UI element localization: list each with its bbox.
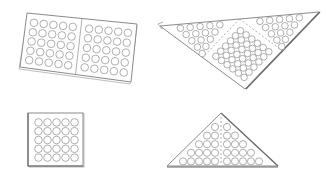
cell-circle (211, 123, 218, 130)
cell-circle (239, 55, 246, 62)
cell-circle (56, 51, 64, 59)
cell-circle (255, 158, 262, 165)
cell-circle (257, 18, 264, 25)
cell-circle (124, 29, 132, 37)
cell-circle (213, 53, 220, 60)
diagram-canvas (0, 0, 326, 180)
cell-circle (227, 38, 234, 45)
cell-circle (44, 127, 52, 135)
cell-circle (177, 25, 184, 32)
cell-circle (82, 54, 90, 62)
cell-circle (62, 127, 70, 135)
cell-circle (268, 31, 275, 38)
cell-circle (194, 44, 201, 51)
cell-circle (50, 21, 58, 29)
cell-circle (237, 27, 244, 34)
cell-circle (277, 30, 284, 37)
cell-circle (53, 119, 61, 127)
cell-circle (195, 149, 202, 156)
cell-circle (101, 56, 109, 64)
cell-circle (195, 141, 202, 148)
cell-circle (211, 158, 218, 165)
cell-circle (111, 58, 119, 66)
cell-circle (229, 56, 236, 63)
cell-circle (255, 49, 262, 56)
cell-circle (282, 23, 289, 30)
cell-circle (110, 67, 118, 75)
cell-circle (249, 45, 256, 52)
cell-circle (179, 158, 186, 165)
cell-circle (207, 22, 214, 29)
cell-circle (62, 145, 70, 153)
square-sheet (28, 113, 84, 167)
cell-circle (122, 49, 130, 57)
cell-circle (183, 31, 190, 38)
cell-circle (58, 32, 66, 40)
cell-circle (48, 31, 56, 39)
cell-circle (30, 19, 38, 27)
cell-circle (235, 70, 242, 77)
cell-circle (71, 127, 79, 135)
cell-circle (234, 51, 241, 58)
cell-circle (71, 136, 79, 144)
cell-circle (247, 158, 254, 165)
cell-circle (239, 141, 246, 148)
cell-circle (223, 132, 230, 139)
cell-circle (92, 55, 100, 63)
cell-circle (231, 132, 238, 139)
cell-circle (68, 33, 76, 41)
cell-circle (187, 158, 194, 165)
cell-circle (62, 136, 70, 144)
cell-circle (187, 149, 194, 156)
cell-circle (274, 37, 281, 44)
cell-circle (232, 33, 239, 40)
cell-circle (198, 37, 205, 44)
cell-circle (95, 26, 103, 34)
cell-circle (231, 141, 238, 148)
cell-circle (261, 54, 268, 61)
cell-circle (93, 45, 101, 53)
cell-circle (189, 38, 196, 45)
cell-circle (53, 145, 61, 153)
cell-circle (81, 64, 89, 72)
cell-circle (53, 136, 61, 144)
cell-circle (44, 136, 52, 144)
cell-circle (40, 20, 48, 28)
cell-circle (239, 149, 246, 156)
cell-circle (71, 145, 79, 153)
cell-circle (203, 43, 210, 50)
cell-circle (218, 57, 225, 64)
cell-circle (260, 44, 267, 51)
cell-circle (262, 24, 269, 31)
cell-circle (44, 145, 52, 153)
cell-circle (278, 43, 285, 50)
cell-circle (62, 154, 70, 162)
cell-circle (193, 30, 200, 37)
cell-circle (243, 32, 250, 39)
cell-circle (231, 149, 238, 156)
cell-circle (38, 39, 46, 47)
cell-circle (224, 61, 231, 68)
cell-circle (203, 132, 210, 139)
cell-circle (238, 37, 245, 44)
cell-circle (53, 154, 61, 162)
cell-circle (211, 132, 218, 139)
cell-circle (195, 158, 202, 165)
cell-circle (187, 24, 194, 31)
cell-circle (28, 38, 36, 46)
cell-circle (39, 30, 47, 38)
cell-circle (286, 15, 293, 22)
cell-circle (207, 36, 214, 43)
cell-circle (256, 59, 263, 66)
cell-circle (100, 66, 108, 74)
cell-circle (197, 23, 204, 30)
cell-circle (44, 119, 52, 127)
cell-circle (35, 145, 43, 153)
cell-circle (199, 50, 206, 57)
cell-circle (103, 47, 111, 55)
cell-circle (114, 28, 122, 36)
cell-circle (57, 41, 65, 49)
cell-circle (64, 62, 72, 70)
cell-circle (276, 16, 283, 23)
cell-circle (45, 59, 53, 67)
